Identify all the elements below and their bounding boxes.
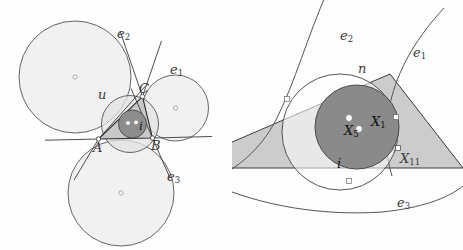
label-ninepoint-circle-n: n <box>358 62 366 75</box>
label-excircle-e2-right: e2 <box>340 29 353 43</box>
label-vertex-c: C <box>139 82 149 95</box>
label-incircle-i-left: i <box>139 121 143 133</box>
label-excircle-e1-right: e1 <box>413 46 426 60</box>
ninepoint-center-dot <box>134 120 139 125</box>
geometry-figure: e2 e1 e3 u i A B C e2 e1 e3 n i X5 X1 X1… <box>0 0 463 250</box>
excircle-e3-center-marker <box>119 191 123 195</box>
label-excircle-e3-right: e3 <box>397 196 410 210</box>
label-excircle-e1-left: e1 <box>170 63 183 77</box>
label-circumcircle-u: u <box>98 88 106 101</box>
touchpoint-right <box>394 115 399 120</box>
ninepoint-center-dot-detail <box>346 115 353 122</box>
incenter-dot <box>126 121 131 126</box>
label-incircle-i-right: i <box>337 157 341 170</box>
label-vertex-b: B <box>151 139 161 152</box>
left-panel-drawing <box>0 0 232 250</box>
label-ninepoint-center-x5: X5 <box>344 124 359 138</box>
touchpoint-bottom <box>347 179 352 184</box>
label-incenter-x1: X1 <box>371 115 386 129</box>
label-vertex-a: A <box>93 141 102 154</box>
label-excircle-e2-left: e2 <box>117 27 130 41</box>
label-excircle-e3-left: e3 <box>167 170 180 184</box>
excircle-e2-center-marker <box>73 75 77 79</box>
feuerbach-point-marker <box>396 146 401 151</box>
label-feuerbach-point-x11: X11 <box>400 152 420 166</box>
touchpoint-left <box>285 97 290 102</box>
excircle-e1-center-marker <box>173 106 177 110</box>
